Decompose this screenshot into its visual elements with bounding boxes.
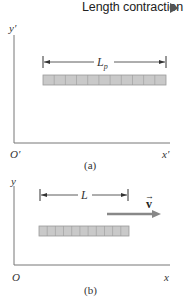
panel-a-axes	[14, 35, 170, 143]
panel-a-origin-label: O′	[10, 148, 20, 160]
vector-arrow-icon: →	[145, 190, 154, 202]
panel-b-x-axis-label: x	[164, 271, 169, 283]
length-symbol: L	[97, 55, 104, 69]
panel-a-y-axis-label: y′	[9, 22, 16, 34]
panel-b-origin-label: O	[12, 271, 20, 283]
panel-b-rod	[39, 226, 129, 236]
panel-a-x-axis-label: x′	[162, 148, 169, 160]
length-subscript: p	[104, 62, 108, 71]
panel-b-length-label: L	[81, 189, 88, 201]
velocity-label: → v	[146, 198, 152, 210]
panel-a-length-label: Lp	[97, 56, 108, 73]
panel-b-caption: (b)	[84, 284, 97, 296]
panel-a-rod	[43, 75, 166, 85]
panel-b-y-axis-label: y	[11, 175, 16, 187]
diagram-canvas	[0, 0, 184, 297]
panel-a-caption: (a)	[84, 159, 96, 171]
velocity-arrow	[107, 210, 161, 218]
